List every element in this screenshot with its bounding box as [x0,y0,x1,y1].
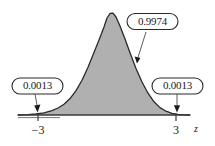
arrowhead-center [135,57,141,64]
arrowhead-left [34,105,40,113]
leader-line-center [138,32,147,59]
normal-distribution-figure: 0.9974 0.0013 0.0013 −3 3 z [0,0,215,146]
arrowhead-right [174,105,180,112]
leader-line-left [35,94,37,105]
axis-variable-label-z: z [193,123,198,134]
callout-label-left: 0.0013 [23,79,53,91]
distribution-chart-svg: 0.9974 0.0013 0.0013 −3 3 z [0,0,215,146]
axis-tick-label-plus-3: 3 [173,123,179,137]
callout-label-center: 0.9974 [138,15,168,27]
axis-tick-label-minus-3: −3 [32,123,45,137]
callout-label-right: 0.0013 [163,79,193,91]
